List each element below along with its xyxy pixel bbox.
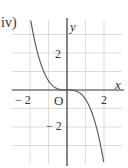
axes (12, 18, 124, 166)
y-axis-label: y (70, 20, 76, 33)
x-tick-neg2: − 2 (15, 94, 31, 106)
y-tick-2: 2 (55, 48, 61, 60)
figure-label: iv) (1, 16, 17, 30)
cubic-graph (0, 0, 128, 168)
x-tick-2: 2 (101, 94, 107, 106)
origin-label: O (54, 94, 63, 107)
y-tick-neg2: − 2 (46, 120, 62, 132)
x-axis-label: x (115, 78, 121, 91)
